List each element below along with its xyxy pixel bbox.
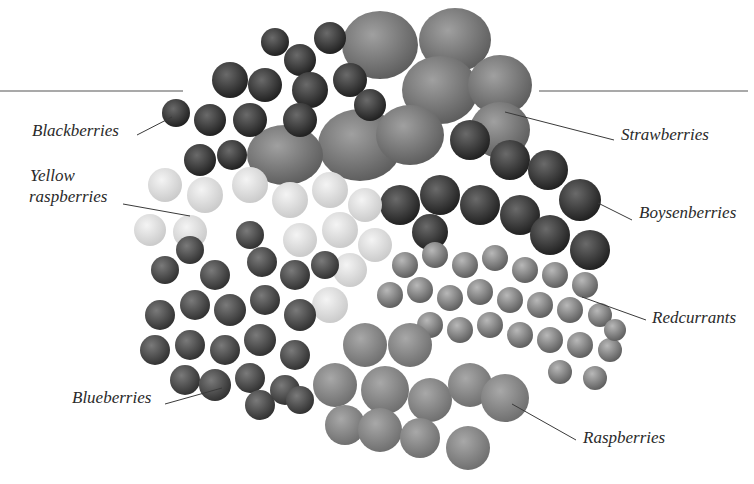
label-yellow-raspberries-line1: Yellow [30,166,75,186]
label-yellow-raspberries-line2: raspberries [29,187,107,207]
label-blueberries: Blueberries [72,388,151,408]
label-raspberries: Raspberries [583,428,665,448]
leader-yellow-raspberries [123,204,190,216]
label-blackberries: Blackberries [32,121,119,141]
raspberries-cluster [313,323,529,470]
label-boysenberries: Boysenberries [639,203,736,223]
label-strawberries: Strawberries [621,125,709,145]
berry-figure: Blackberries Yellow raspberries Blueberr… [0,0,754,484]
leader-raspberries [512,404,576,440]
leader-blackberries [137,117,172,135]
strawberries-cluster [247,8,532,185]
leader-boysenberries [598,203,632,220]
label-redcurrants: Redcurrants [652,308,736,328]
berries-photo [0,0,754,484]
